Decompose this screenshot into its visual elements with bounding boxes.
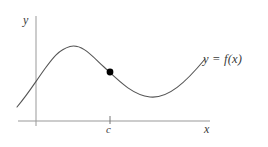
graph-canvas: [0, 0, 268, 147]
x-axis-label: x: [204, 123, 209, 135]
function-graph-figure: y x c y = f(x): [0, 0, 268, 147]
y-axis-label: y: [23, 14, 28, 26]
inflection-point-marker: [107, 69, 114, 76]
curve-equation-label: y = f(x): [203, 53, 242, 66]
x-tick-label-c: c: [106, 124, 111, 135]
function-curve: [17, 46, 205, 107]
